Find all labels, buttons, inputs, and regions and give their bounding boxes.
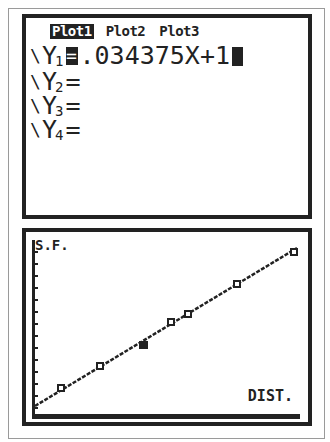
stat-plot-tabs: Plot1 Plot2 Plot3 [50, 24, 201, 39]
data-point [291, 249, 297, 255]
data-point [58, 385, 64, 391]
y4-name: Y [42, 118, 55, 142]
y1-expression[interactable]: .034375X+1 [80, 44, 231, 68]
plot2-tab[interactable]: Plot2 [104, 24, 148, 39]
x-axis-label: DIST. [248, 387, 293, 405]
regression-line [35, 248, 297, 406]
y1-row[interactable]: \ Y 1 = .034375X+1 [30, 44, 243, 68]
x-axis [32, 414, 300, 419]
graph-style-icon[interactable]: \ [30, 70, 42, 94]
data-point [168, 319, 174, 325]
y-axis [32, 240, 35, 416]
text-cursor [232, 47, 243, 66]
plot1-tab[interactable]: Plot1 [50, 24, 94, 39]
data-point [234, 281, 240, 287]
data-point [185, 311, 191, 317]
y4-row[interactable]: \ Y 4 = [30, 118, 81, 142]
graph-style-icon[interactable]: \ [30, 118, 42, 142]
data-point [97, 363, 103, 369]
y-editor-screen: Plot1 Plot2 Plot3 \ Y 1 = .034375X+1 \ Y… [22, 14, 312, 219]
y-axis-ticks [35, 251, 38, 409]
y1-name: Y [42, 44, 55, 68]
y-axis-label: S.F. [35, 237, 69, 253]
graph-style-icon[interactable]: \ [30, 44, 42, 68]
graph-screen: S.F. DIST. [22, 228, 312, 426]
data-point-highlighted [140, 342, 147, 348]
y4-subscript: 4 [55, 123, 63, 147]
y1-equals-selected[interactable]: = [66, 47, 78, 65]
graph-style-icon[interactable]: \ [30, 94, 42, 118]
y4-equals[interactable]: = [66, 118, 81, 142]
plot3-tab[interactable]: Plot3 [157, 24, 201, 39]
